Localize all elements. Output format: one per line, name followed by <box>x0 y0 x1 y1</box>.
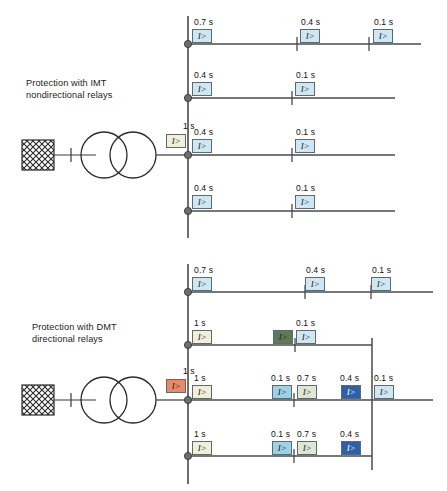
relay-symbol: I> <box>198 198 206 207</box>
source-block-dmt <box>22 385 54 415</box>
time-label-f1r2-imt: 0.4 s <box>301 18 320 27</box>
relay-f2r1-dmt[interactable]: I> <box>192 330 212 344</box>
relay-symbol: I> <box>302 333 310 342</box>
relay-f3r4-dmt[interactable]: I> <box>341 385 361 399</box>
bus-node-2-dmt <box>184 341 191 348</box>
time-label-f1r1-imt: 0.7 s <box>194 18 213 27</box>
time-label-f3r4-dmt: 0.4 s <box>340 374 359 383</box>
relay-f1r1-dmt[interactable]: I> <box>192 277 212 291</box>
time-label-f2r2-imt: 0.1 s <box>296 71 315 80</box>
time-label-f4r1-imt: 0.4 s <box>194 184 213 193</box>
time-label-f1r1-dmt: 0.7 s <box>194 266 213 275</box>
caption-dmt: Protection with DMT directional relays <box>32 322 182 345</box>
transformer-winding-2-dmt <box>110 377 156 423</box>
source-block-imt <box>22 140 54 170</box>
relay-symbol: I> <box>379 32 387 41</box>
time-label-f3r2-dmt: 0.1 s <box>271 374 290 383</box>
relay-f3r1-imt[interactable]: I> <box>192 139 212 153</box>
relay-f2r2-dmt[interactable]: I> <box>273 330 293 344</box>
relay-f1r1-imt[interactable]: I> <box>192 29 212 43</box>
relay-f2r1-imt[interactable]: I> <box>192 82 212 96</box>
time-label-f4r2-imt: 0.1 s <box>296 184 315 193</box>
diagram-canvas: Protection with IMT nondirectional relay… <box>0 0 447 491</box>
relay-f1r3-imt[interactable]: I> <box>373 29 393 43</box>
relay-f1r3-dmt[interactable]: I> <box>371 277 391 291</box>
relay-symbol: I> <box>198 280 206 289</box>
bus-node-3-dmt <box>184 396 191 403</box>
relay-f4r2-imt[interactable]: I> <box>295 195 315 209</box>
relay-transformer-imt[interactable]: I> <box>166 134 186 148</box>
relay-f4r1-dmt[interactable]: I> <box>192 441 212 455</box>
time-label-f4r3-dmt: 0.7 s <box>297 430 316 439</box>
time-label-transformer-imt: 1 s <box>183 122 195 131</box>
relay-f1r2-dmt[interactable]: I> <box>305 277 325 291</box>
relay-symbol: I> <box>198 444 206 453</box>
relay-f3r5-dmt[interactable]: I> <box>374 385 394 399</box>
relay-symbol: I> <box>198 388 206 397</box>
relay-symbol: I> <box>377 280 385 289</box>
time-label-f3r2-imt: 0.1 s <box>296 128 315 137</box>
relay-f2r3-dmt[interactable]: I> <box>296 330 316 344</box>
relay-symbol: I> <box>198 85 206 94</box>
relay-f4r2-dmt[interactable]: I> <box>272 441 292 455</box>
relay-symbol: I> <box>172 137 180 146</box>
bus-node-1-imt <box>184 40 191 47</box>
time-label-f1r2-dmt: 0.4 s <box>306 266 325 275</box>
relay-symbol: I> <box>303 388 311 397</box>
time-label-f1r3-imt: 0.1 s <box>374 18 393 27</box>
relay-symbol: I> <box>278 388 286 397</box>
relay-symbol: I> <box>301 85 309 94</box>
relay-f3r1-dmt[interactable]: I> <box>192 385 212 399</box>
imt-section-graphics <box>22 16 421 238</box>
relay-f4r3-dmt[interactable]: I> <box>297 441 317 455</box>
time-label-f2r1-dmt: 1 s <box>194 319 206 328</box>
dmt-section-graphics <box>22 264 433 484</box>
relay-f3r2-imt[interactable]: I> <box>295 139 315 153</box>
time-label-f3r5-dmt: 0.1 s <box>374 374 393 383</box>
transformer-winding-2-imt <box>110 132 156 178</box>
caption-imt: Protection with IMT nondirectional relay… <box>26 78 176 101</box>
relay-symbol: I> <box>303 444 311 453</box>
bus-node-4-dmt <box>184 452 191 459</box>
relay-symbol: I> <box>306 32 314 41</box>
relay-f3r2-dmt[interactable]: I> <box>272 385 292 399</box>
relay-symbol: I> <box>172 382 180 391</box>
relay-f4r1-imt[interactable]: I> <box>192 195 212 209</box>
relay-symbol: I> <box>278 444 286 453</box>
relay-symbol: I> <box>198 333 206 342</box>
relay-f1r2-imt[interactable]: I> <box>300 29 320 43</box>
bus-node-1-dmt <box>184 288 191 295</box>
relay-symbol: I> <box>380 388 388 397</box>
relay-f2r2-imt[interactable]: I> <box>295 82 315 96</box>
relay-symbol: I> <box>347 388 355 397</box>
relay-symbol: I> <box>347 444 355 453</box>
time-label-f2r1-imt: 0.4 s <box>194 71 213 80</box>
bus-node-4-imt <box>184 207 191 214</box>
time-label-f3r3-dmt: 0.7 s <box>297 374 316 383</box>
time-label-f3r1-imt: 0.4 s <box>194 128 213 137</box>
time-label-f3r1-dmt: 1 s <box>194 374 206 383</box>
relay-transformer-dmt[interactable]: I> <box>166 379 186 393</box>
relay-f4r4-dmt[interactable]: I> <box>341 441 361 455</box>
time-label-f2r3-dmt: 0.1 s <box>296 319 315 328</box>
time-label-transformer-dmt: 1 s <box>183 367 195 376</box>
relay-symbol: I> <box>301 198 309 207</box>
relay-f3r3-dmt[interactable]: I> <box>297 385 317 399</box>
time-label-f4r4-dmt: 0.4 s <box>340 430 359 439</box>
bus-node-3-imt <box>184 151 191 158</box>
time-label-f4r1-dmt: 1 s <box>194 430 206 439</box>
time-label-f4r2-dmt: 0.1 s <box>271 430 290 439</box>
relay-symbol: I> <box>279 333 287 342</box>
relay-symbol: I> <box>198 142 206 151</box>
relay-symbol: I> <box>311 280 319 289</box>
relay-symbol: I> <box>301 142 309 151</box>
protection-diagram-svg <box>0 0 447 491</box>
bus-node-2-imt <box>184 94 191 101</box>
relay-symbol: I> <box>198 32 206 41</box>
time-label-f1r3-dmt: 0.1 s <box>372 266 391 275</box>
